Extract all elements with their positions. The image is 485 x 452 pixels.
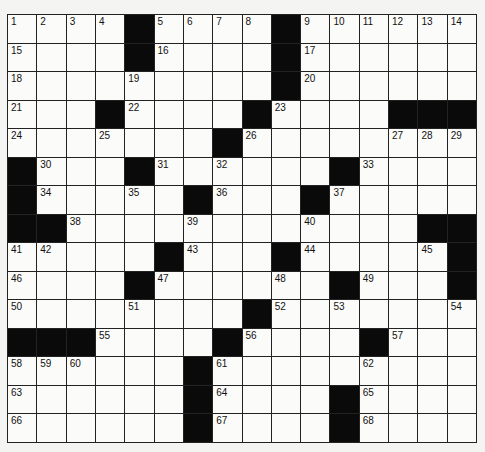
grid-cell[interactable]: 7 [213, 15, 241, 43]
grid-cell[interactable] [67, 158, 95, 186]
grid-cell[interactable] [389, 414, 417, 442]
grid-cell[interactable]: 52 [272, 300, 300, 328]
grid-cell[interactable] [155, 357, 183, 385]
grid-cell[interactable] [301, 272, 329, 300]
grid-cell[interactable] [330, 357, 358, 385]
grid-cell[interactable]: 64 [213, 386, 241, 414]
grid-cell[interactable] [37, 72, 65, 100]
grid-cell[interactable] [301, 300, 329, 328]
grid-cell[interactable] [389, 158, 417, 186]
grid-cell[interactable] [125, 386, 153, 414]
grid-cell[interactable] [418, 414, 446, 442]
grid-cell[interactable] [418, 186, 446, 214]
grid-cell[interactable] [96, 386, 124, 414]
grid-cell[interactable]: 27 [389, 129, 417, 157]
grid-cell[interactable]: 11 [360, 15, 388, 43]
grid-cell[interactable] [418, 44, 446, 72]
grid-cell[interactable] [448, 158, 476, 186]
grid-cell[interactable]: 36 [213, 186, 241, 214]
grid-cell[interactable] [96, 357, 124, 385]
grid-cell[interactable] [448, 72, 476, 100]
grid-cell[interactable]: 31 [155, 158, 183, 186]
grid-cell[interactable]: 21 [8, 101, 36, 129]
grid-cell[interactable] [155, 72, 183, 100]
grid-cell[interactable] [360, 215, 388, 243]
grid-cell[interactable]: 9 [301, 15, 329, 43]
grid-cell[interactable]: 46 [8, 272, 36, 300]
grid-cell[interactable] [330, 329, 358, 357]
grid-cell[interactable] [184, 272, 212, 300]
grid-cell[interactable]: 45 [418, 243, 446, 271]
grid-cell[interactable] [389, 186, 417, 214]
grid-cell[interactable] [301, 129, 329, 157]
grid-cell[interactable] [184, 329, 212, 357]
grid-cell[interactable] [155, 129, 183, 157]
grid-cell[interactable] [184, 44, 212, 72]
grid-cell[interactable]: 32 [213, 158, 241, 186]
grid-cell[interactable]: 38 [67, 215, 95, 243]
grid-cell[interactable]: 61 [213, 357, 241, 385]
grid-cell[interactable] [418, 357, 446, 385]
grid-cell[interactable]: 2 [37, 15, 65, 43]
grid-cell[interactable] [67, 72, 95, 100]
grid-cell[interactable] [67, 101, 95, 129]
grid-cell[interactable] [155, 186, 183, 214]
grid-cell[interactable] [96, 215, 124, 243]
grid-cell[interactable]: 49 [360, 272, 388, 300]
grid-cell[interactable]: 24 [8, 129, 36, 157]
grid-cell[interactable] [418, 386, 446, 414]
grid-cell[interactable] [448, 329, 476, 357]
grid-cell[interactable] [272, 215, 300, 243]
grid-cell[interactable] [37, 300, 65, 328]
grid-cell[interactable] [272, 329, 300, 357]
grid-cell[interactable]: 23 [272, 101, 300, 129]
grid-cell[interactable] [96, 300, 124, 328]
grid-cell[interactable]: 33 [360, 158, 388, 186]
grid-cell[interactable]: 26 [243, 129, 271, 157]
grid-cell[interactable]: 15 [8, 44, 36, 72]
grid-cell[interactable] [330, 243, 358, 271]
grid-cell[interactable] [448, 386, 476, 414]
grid-cell[interactable] [243, 44, 271, 72]
grid-cell[interactable] [389, 243, 417, 271]
grid-cell[interactable] [418, 272, 446, 300]
grid-cell[interactable] [418, 300, 446, 328]
grid-cell[interactable] [125, 129, 153, 157]
grid-cell[interactable] [125, 243, 153, 271]
grid-cell[interactable] [418, 158, 446, 186]
grid-cell[interactable]: 57 [389, 329, 417, 357]
grid-cell[interactable]: 28 [418, 129, 446, 157]
grid-cell[interactable]: 63 [8, 386, 36, 414]
grid-cell[interactable] [389, 386, 417, 414]
grid-cell[interactable] [272, 386, 300, 414]
grid-cell[interactable] [67, 186, 95, 214]
grid-cell[interactable] [418, 72, 446, 100]
grid-cell[interactable]: 44 [301, 243, 329, 271]
grid-cell[interactable] [243, 386, 271, 414]
grid-cell[interactable] [330, 72, 358, 100]
grid-cell[interactable]: 50 [8, 300, 36, 328]
grid-cell[interactable]: 12 [389, 15, 417, 43]
grid-cell[interactable] [301, 158, 329, 186]
grid-cell[interactable] [360, 44, 388, 72]
grid-cell[interactable]: 48 [272, 272, 300, 300]
grid-cell[interactable]: 35 [125, 186, 153, 214]
grid-cell[interactable]: 20 [301, 72, 329, 100]
grid-cell[interactable]: 29 [448, 129, 476, 157]
grid-cell[interactable]: 60 [67, 357, 95, 385]
grid-cell[interactable]: 47 [155, 272, 183, 300]
grid-cell[interactable] [184, 101, 212, 129]
grid-cell[interactable] [67, 300, 95, 328]
grid-cell[interactable]: 37 [330, 186, 358, 214]
grid-cell[interactable]: 62 [360, 357, 388, 385]
grid-cell[interactable] [360, 243, 388, 271]
grid-cell[interactable] [96, 414, 124, 442]
grid-cell[interactable]: 19 [125, 72, 153, 100]
grid-cell[interactable] [37, 101, 65, 129]
grid-cell[interactable] [213, 44, 241, 72]
grid-cell[interactable]: 59 [37, 357, 65, 385]
grid-cell[interactable] [67, 243, 95, 271]
grid-cell[interactable] [37, 129, 65, 157]
grid-cell[interactable]: 16 [155, 44, 183, 72]
grid-cell[interactable] [155, 101, 183, 129]
